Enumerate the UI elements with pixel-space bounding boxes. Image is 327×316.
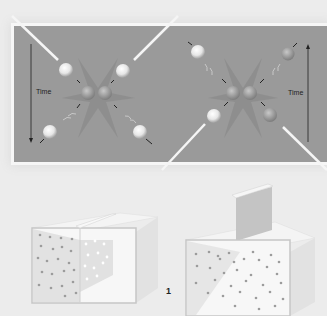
diagram-canvas <box>0 0 327 316</box>
collision-particle-icon <box>98 86 112 100</box>
motion-tick-icon <box>260 79 264 83</box>
gas-region-left <box>33 229 80 302</box>
scatter-arrow-icon <box>146 139 152 144</box>
time-label-left: Time <box>36 88 51 95</box>
collision-particle-icon <box>226 86 240 100</box>
incoming-beam-icon <box>283 127 327 170</box>
figure-number: 1 <box>166 286 171 296</box>
motion-tick-icon <box>77 80 80 83</box>
left-gas-box <box>32 213 158 303</box>
incoming-beam-icon <box>162 124 205 170</box>
motion-trail-icon <box>205 64 212 75</box>
scatter-arrow-icon <box>188 42 192 45</box>
scatter-arrow-icon <box>40 139 44 143</box>
time-arrow-head-icon <box>306 44 310 49</box>
box-side <box>290 238 315 316</box>
motion-tick-icon <box>77 104 80 108</box>
incoming-beam-icon <box>12 16 58 60</box>
motion-trail-icon <box>63 113 76 120</box>
right-gas-box <box>186 184 315 316</box>
collision-particle-icon <box>243 86 257 100</box>
motion-tick-icon <box>222 79 226 83</box>
motion-tick-icon <box>114 105 117 108</box>
time-label-right: Time <box>288 89 303 96</box>
left-collision-scene <box>12 16 178 144</box>
time-arrow-head-icon <box>29 138 33 143</box>
particle-icon <box>133 125 147 139</box>
particle-icon <box>282 48 295 61</box>
collision-particle-icon <box>81 86 95 100</box>
box-side <box>136 217 158 303</box>
particle-icon <box>207 109 221 123</box>
scatter-arrow-icon <box>293 43 297 47</box>
right-collision-scene <box>162 42 327 170</box>
incoming-beam-icon <box>134 16 178 60</box>
particle-icon <box>191 45 205 59</box>
motion-tick-icon <box>224 102 228 106</box>
particle-icon <box>263 108 277 122</box>
particle-icon <box>116 64 130 78</box>
motion-tick-icon <box>261 102 265 106</box>
motion-trail-icon <box>125 116 136 123</box>
x-glow-shape <box>208 58 278 138</box>
motion-tick-icon <box>111 80 114 83</box>
particle-icon <box>59 63 73 77</box>
motion-trail-icon <box>273 64 280 75</box>
particle-icon <box>43 125 57 139</box>
